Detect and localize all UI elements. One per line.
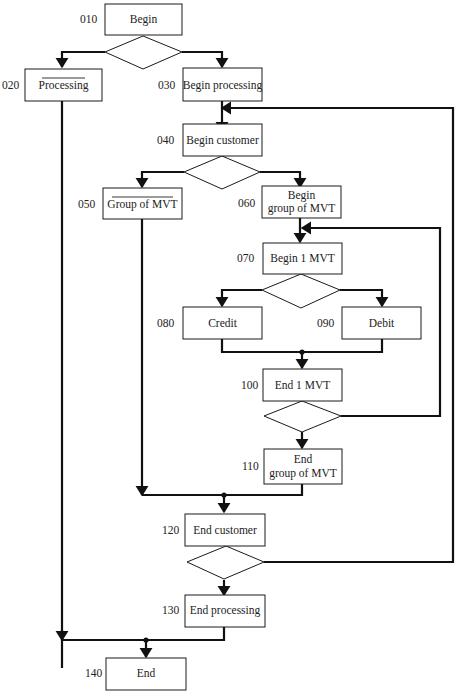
node-label: Processing [39,79,89,92]
node-number: 070 [237,252,255,264]
node-label: Begin [130,13,158,26]
node-label-line2: group of MVT [268,202,336,215]
merge-020-130 [62,627,224,640]
node-number: 140 [85,667,103,679]
node-120: 120 End customer [162,514,265,546]
node-050: 050 Group of MVT [78,188,182,219]
decision-diamond-3 [262,274,340,308]
node-number: 020 [2,79,20,91]
node-020: 020 Processing [2,69,102,101]
node-030: 030 Begin processing [158,68,263,101]
node-060: 060 Begin group of MVT [238,186,341,218]
node-number: 030 [158,79,176,91]
node-label-line2: group of MVT [269,467,337,480]
node-label: End processing [190,604,261,617]
node-label: Group of MVT [107,198,177,211]
node-label: End 1 MVT [275,379,331,391]
branch-to-050 [142,172,184,187]
junction-dot [143,637,148,642]
decision-diamond-1 [105,36,182,69]
node-140: 140 End [85,658,186,690]
node-010: 010 Begin [80,4,182,35]
node-070: 070 Begin 1 MVT [237,243,342,274]
branch-to-080 [222,290,262,306]
node-110: 110 End group of MVT [242,449,342,484]
junction-dot [299,349,304,354]
node-label: End [137,667,156,679]
node-label: Begin 1 MVT [270,252,335,265]
decision-diamond-2 [184,156,260,189]
decision-diamond-5 [187,546,264,579]
node-number: 010 [80,13,98,25]
junction-dot [221,492,226,497]
branch-to-090 [340,290,382,306]
node-number: 080 [157,317,175,329]
node-label: Begin processing [183,79,263,92]
node-label-line1: Begin [288,189,316,202]
node-130: 130 End processing [162,595,265,627]
branch-to-020 [62,52,105,67]
node-number: 120 [162,524,180,536]
node-090: 090 Debit [317,307,421,339]
node-number: 110 [242,460,259,472]
branch-to-060 [260,172,300,187]
node-number: 100 [241,379,259,391]
node-label: Credit [208,317,238,329]
node-number: 040 [157,134,175,146]
node-number: 130 [162,604,180,616]
node-080: 080 Credit [157,307,262,339]
node-100: 100 End 1 MVT [241,369,342,401]
node-label-line1: End [294,453,313,465]
node-number: 090 [317,317,335,329]
node-label: End customer [193,524,257,536]
branch-to-030 [182,52,222,67]
node-number: 060 [238,197,256,209]
node-040: 040 Begin customer [157,124,262,156]
decision-diamond-4 [264,401,341,432]
node-label: Debit [369,317,395,329]
node-number: 050 [78,198,96,210]
flowchart-canvas: 010 Begin 020 Processing 030 Begin proce… [0,0,460,695]
node-label: Begin customer [186,134,259,147]
